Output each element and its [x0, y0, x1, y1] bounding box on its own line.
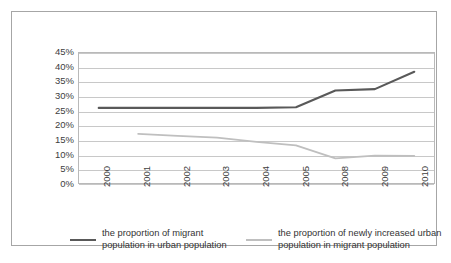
x-tick-label: 2010: [420, 166, 430, 187]
y-tick-label: 30%: [34, 91, 74, 101]
legend-label-newly-increased-urban: the proportion of newly increased urban …: [278, 228, 441, 251]
legend-label-line-2: population in migrant population: [278, 240, 441, 252]
series-line-migrant-in-urban: [99, 72, 415, 108]
y-tick-label: 15%: [34, 135, 74, 145]
y-tick-label: 20%: [34, 120, 74, 130]
legend-label-line-2: population in urban population: [102, 240, 227, 252]
y-tick-label: 25%: [34, 106, 74, 116]
y-tick-label: 35%: [34, 76, 74, 86]
legend-label-line-1: the proportion of migrant: [102, 228, 227, 240]
legend-item-newly-increased-urban: the proportion of newly increased urban …: [246, 228, 440, 251]
x-tick-label: 2000: [102, 166, 112, 187]
y-tick-label: 5%: [34, 164, 74, 174]
chart-legend: the proportion of migrant population in …: [70, 228, 440, 258]
x-tick-label: 2005: [301, 166, 311, 187]
x-tick-label: 2004: [261, 166, 271, 187]
series-line-newly-increased-urban: [138, 134, 414, 159]
x-tick-label: 2001: [142, 166, 152, 187]
legend-swatch-dark-icon: [70, 239, 96, 241]
y-tick-label: 45%: [34, 47, 74, 57]
series-container: [79, 53, 434, 183]
x-axis: 200020012002200320042005200820092010: [78, 184, 435, 226]
chart-figure: 45%40%35%30%25%20%15%10%5%0% 20002001200…: [0, 0, 451, 263]
y-tick-label: 0%: [34, 179, 74, 189]
legend-label-line-1: the proportion of newly increased urban: [278, 228, 441, 240]
legend-swatch-light-icon: [246, 239, 272, 241]
legend-item-migrant-in-urban: the proportion of migrant population in …: [70, 228, 246, 251]
chart-outer-frame: 45%40%35%30%25%20%15%10%5%0% 20002001200…: [11, 11, 437, 246]
y-tick-label: 40%: [34, 62, 74, 72]
legend-label-migrant-in-urban: the proportion of migrant population in …: [102, 228, 227, 251]
y-axis: 45%40%35%30%25%20%15%10%5%0%: [34, 52, 74, 184]
x-tick-label: 2008: [340, 166, 350, 187]
x-tick-label: 2009: [380, 166, 390, 187]
x-tick-label: 2003: [221, 166, 231, 187]
x-tick-label: 2002: [182, 166, 192, 187]
plot-area: [78, 52, 435, 184]
y-tick-label: 10%: [34, 150, 74, 160]
